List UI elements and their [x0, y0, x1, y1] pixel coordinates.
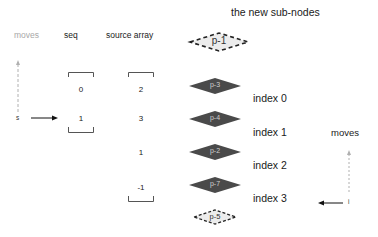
source-bottom-bracket: [128, 196, 154, 202]
node-p-1: p-1: [186, 32, 252, 52]
seq-bottom-bracket: [68, 127, 94, 133]
right-moves-arrow-icon: [345, 150, 355, 194]
left-moves-arrow-icon: [14, 60, 24, 116]
node-p-7: p-7: [189, 177, 241, 193]
index-label-1: index 1: [253, 126, 287, 138]
node-p-4: p-4: [189, 111, 241, 127]
node-label: p-3: [189, 81, 241, 88]
node-p-2: p-2: [189, 144, 241, 160]
seq-value-0: 0: [71, 85, 91, 94]
right-moves-label: moves: [331, 127, 359, 138]
s-pointer-arrow-icon: [30, 114, 60, 122]
i-pointer-arrow-icon: [318, 199, 344, 207]
source-value-3: -1: [131, 183, 151, 192]
source-value-0: 2: [131, 85, 151, 94]
i-pointer-label: i: [348, 198, 349, 205]
node-label: p-7: [189, 180, 241, 187]
node-label: p-2: [189, 147, 241, 154]
source-value-1: 3: [131, 114, 151, 123]
source-value-2: 1: [131, 148, 151, 157]
s-pointer-label: s: [16, 114, 19, 121]
source-array-label: source array: [106, 30, 153, 40]
node-label: p-1: [186, 35, 252, 46]
node-label: p-5: [191, 212, 239, 221]
node-p-3: p-3: [189, 78, 241, 94]
left-moves-label: moves: [14, 30, 39, 40]
node-p-5: p-5: [191, 209, 239, 225]
seq-top-bracket: [68, 72, 94, 78]
source-top-bracket: [128, 72, 154, 78]
seq-label: seq: [64, 30, 78, 40]
index-label-0: index 0: [253, 92, 287, 104]
node-label: p-4: [189, 114, 241, 121]
index-label-3: index 3: [253, 192, 287, 204]
index-label-2: index 2: [253, 159, 287, 171]
diagram-title: the new sub-nodes: [231, 6, 320, 18]
seq-value-1: 1: [71, 114, 91, 123]
